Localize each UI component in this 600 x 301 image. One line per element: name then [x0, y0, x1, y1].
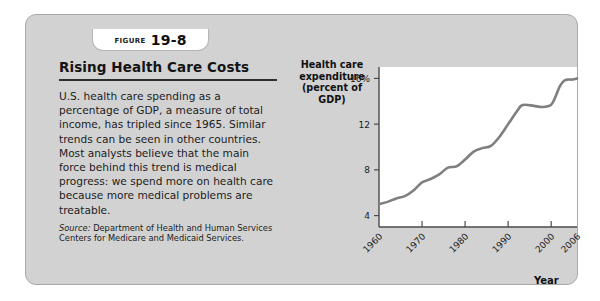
- y-axis-ticks: 481216%: [350, 74, 379, 221]
- figure-tab-number: 19-8: [151, 32, 187, 48]
- x-tick-label: 2006: [559, 231, 582, 254]
- plot-background: [379, 67, 577, 227]
- y-tick-label: 4: [364, 211, 370, 221]
- line-chart-plot: 481216% 196019701980199020002006: [288, 57, 588, 292]
- source-text: Department of Health and Human Services …: [59, 223, 272, 243]
- figure-text-column: Rising Health Care Costs U.S. health car…: [59, 59, 277, 243]
- x-tick-label: 2000: [533, 231, 556, 254]
- figure-body-text: U.S. health care spending as a percentag…: [59, 89, 277, 217]
- figure-panel: Figure 19-8 Rising Health Care Costs U.S…: [25, 14, 578, 285]
- x-tick-label: 1960: [361, 231, 384, 254]
- figure-tab-badge: Figure 19-8: [92, 29, 209, 51]
- y-tick-label: 12: [359, 120, 370, 130]
- x-axis-title: Year: [534, 275, 559, 286]
- figure-tab-word: Figure: [114, 34, 145, 45]
- figure-title: Rising Health Care Costs: [59, 59, 277, 75]
- source-note: Source: Department of Health and Human S…: [59, 223, 277, 244]
- x-tick-label: 1970: [404, 231, 427, 254]
- source-label: Source:: [59, 223, 90, 233]
- title-divider: [59, 79, 277, 81]
- x-tick-label: 1980: [447, 231, 470, 254]
- y-tick-label: 16%: [350, 74, 370, 84]
- y-tick-label: 8: [364, 165, 370, 175]
- x-tick-label: 1990: [490, 231, 513, 254]
- chart-block: Health care expenditure (percent of GDP)…: [288, 57, 588, 292]
